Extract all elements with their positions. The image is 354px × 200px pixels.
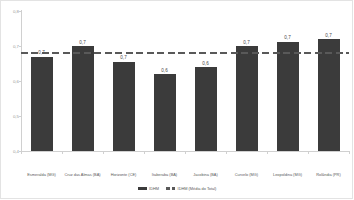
bar-chart: 0,80,70,60,50,4 0,70,70,70,60,60,70,70,7…	[0, 0, 354, 200]
y-axis-tick-label: 0,7	[3, 44, 19, 49]
x-axis-tick-mark	[226, 152, 227, 154]
bar-value-label: 0,6	[150, 68, 180, 73]
x-axis-tick-mark	[103, 152, 104, 154]
x-axis-category-labels: Esmeralda (MG)Cruz das Almas (BA)Horizon…	[21, 172, 349, 182]
bar-value-label: 0,7	[27, 50, 57, 55]
x-axis-tick-mark	[21, 152, 22, 154]
category-label: Cruz das Almas (BA)	[60, 172, 106, 177]
legend-item[interactable]: IDHM (Média do Total)	[166, 186, 216, 191]
bar-value-label: 0,7	[68, 40, 98, 45]
x-axis-tick-mark	[144, 152, 145, 154]
y-axis-tick-label: 0,5	[3, 114, 19, 119]
legend-label: IDHM	[149, 186, 159, 191]
category-label: Horizonte (CE)	[101, 172, 147, 177]
bar	[113, 62, 135, 151]
y-axis-tick-label: 0,4	[3, 149, 19, 154]
dashed-line-icon	[166, 187, 175, 190]
bar	[277, 42, 299, 151]
x-axis-tick-mark	[185, 152, 186, 154]
bar	[195, 67, 217, 151]
y-axis-tick-mark	[19, 81, 21, 82]
category-label: Esmeralda (MG)	[19, 172, 65, 177]
category-label: Itaberaba (BA)	[142, 172, 188, 177]
plot-area	[21, 11, 349, 151]
bar-value-label: 0,7	[273, 35, 303, 40]
y-axis-labels: 0,80,70,60,50,4	[0, 0, 19, 200]
y-axis-tick-mark	[19, 11, 21, 12]
bar	[154, 74, 176, 151]
y-axis-tick-label: 0,8	[3, 9, 19, 14]
bar	[31, 57, 53, 152]
bar-value-label: 0,7	[232, 40, 262, 45]
x-axis-tick-mark	[349, 152, 350, 154]
y-axis-tick-mark	[19, 46, 21, 47]
chart-legend: IDHMIDHM (Média do Total)	[0, 186, 354, 191]
x-axis-tick-mark	[308, 152, 309, 154]
bar	[236, 46, 258, 151]
bar-value-label: 0,6	[191, 61, 221, 66]
category-label: Rolândia (PR)	[306, 172, 352, 177]
y-axis-tick-label: 0,6	[3, 79, 19, 84]
bar-swatch-icon	[138, 187, 147, 190]
bar-value-label: 0,7	[109, 55, 139, 60]
bar-value-label: 0,7	[314, 33, 344, 38]
x-axis-tick-mark	[62, 152, 63, 154]
bar	[318, 39, 340, 151]
y-axis-tick-mark	[19, 116, 21, 117]
category-label: Leopoldina (MG)	[265, 172, 311, 177]
average-line	[21, 52, 349, 54]
bar	[72, 46, 94, 151]
legend-label: IDHM (Média do Total)	[178, 186, 217, 191]
legend-item[interactable]: IDHM	[138, 186, 159, 191]
category-label: Curvelo (MG)	[224, 172, 270, 177]
x-axis-tick-mark	[267, 152, 268, 154]
category-label: Jacobina (BA)	[183, 172, 229, 177]
